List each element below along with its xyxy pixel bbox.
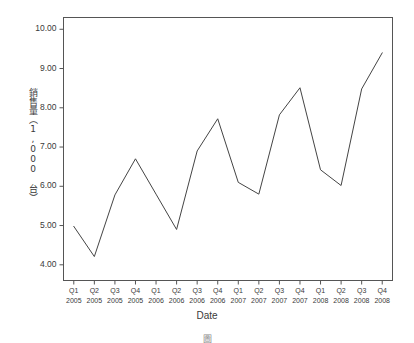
y-tick-label: 9.00 — [40, 63, 57, 73]
x-axis-title: Date — [0, 310, 414, 321]
x-tick-year-label: 2008 — [370, 297, 394, 304]
y-tick-label: 4.00 — [40, 259, 57, 269]
y-tick-label: 6.00 — [40, 180, 57, 190]
figure-caption-stub: 圖 — [196, 332, 218, 343]
y-tick-label: 8.00 — [40, 102, 57, 112]
y-tick-label: 7.00 — [40, 141, 57, 151]
sales-volume-line-chart-figure: 銷售量（1,000 台） Date 圖 4.005.006.007.008.00… — [0, 0, 414, 343]
y-tick-label: 10.00 — [35, 23, 56, 33]
x-tick-quarter-label: Q4 — [370, 287, 394, 294]
data-series-line — [74, 53, 382, 257]
y-tick-label: 5.00 — [40, 220, 57, 230]
